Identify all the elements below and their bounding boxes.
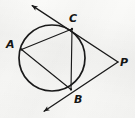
point-a-dot <box>20 48 22 50</box>
point-c-dot <box>71 28 73 30</box>
point-label-a: A <box>6 39 15 50</box>
chord-ab <box>22 50 72 90</box>
point-b-dot <box>70 88 72 90</box>
chord-ac <box>22 29 73 50</box>
geometry-canvas <box>0 0 135 118</box>
chord-cb <box>71 29 72 90</box>
geometry-figure: A C B P <box>0 0 135 118</box>
circle-shape <box>19 25 85 91</box>
point-label-p: P <box>120 57 128 68</box>
point-label-b: B <box>74 94 82 105</box>
point-label-c: C <box>69 13 77 24</box>
